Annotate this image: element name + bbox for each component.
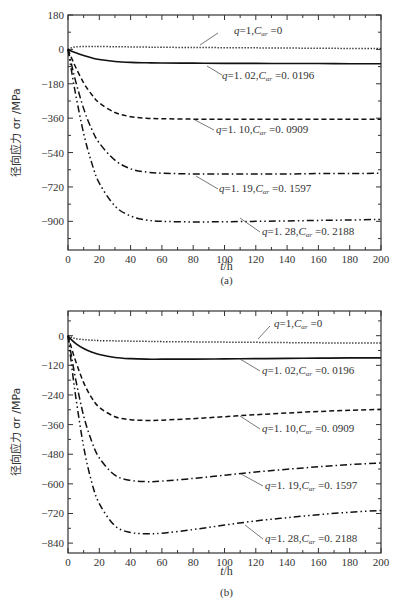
x-tick-label: 80 xyxy=(188,253,200,265)
x-axis: 020406080100120140160180200 xyxy=(65,311,390,568)
panel-caption: (b) xyxy=(220,586,233,599)
annotations: q=1,Cαr =0q=1. 02,Cαr =0. 0196q=1. 10,Cα… xyxy=(195,24,355,239)
x-tick-label: 160 xyxy=(310,556,327,568)
y-tick-label: −360 xyxy=(41,112,64,124)
x-tick-label: 20 xyxy=(94,253,106,265)
x-tick-label: 60 xyxy=(156,253,168,265)
series-annotation: q=1,Cαr =0 xyxy=(234,24,283,38)
leader-line xyxy=(245,525,263,539)
x-tick-label: 20 xyxy=(94,556,106,568)
x-tick-label: 140 xyxy=(279,253,296,265)
y-tick-label: 180 xyxy=(48,9,65,21)
chart-panel-b: 0204060801001201401601802000−120−240−360… xyxy=(9,311,390,599)
series-line-solid xyxy=(68,336,381,359)
y-tick-label: −480 xyxy=(41,448,64,460)
series-annotation: q=1. 19,Cαr =0. 1597 xyxy=(219,182,312,196)
y-tick-label: 0 xyxy=(59,330,65,342)
x-tick-label: 200 xyxy=(373,556,390,568)
chart-canvas: 0204060801001201401601802001800−180−360−… xyxy=(0,0,394,610)
y-axis: 0−120−240−360−480−600−720−840 xyxy=(41,321,381,549)
y-tick-label: −540 xyxy=(41,147,64,159)
x-tick-label: 160 xyxy=(310,253,327,265)
series-annotation: q=1. 19,Cαr =0. 1597 xyxy=(265,479,358,493)
x-tick-label: 200 xyxy=(373,253,390,265)
leader-line xyxy=(241,474,263,486)
x-tick-label: 60 xyxy=(156,556,168,568)
leader-line xyxy=(200,33,218,45)
y-axis-label: 径向应力 σr /MPa xyxy=(9,88,23,177)
x-tick-label: 40 xyxy=(125,556,137,568)
series-line-solid xyxy=(68,49,381,63)
series-annotation: q=1. 10,Cαr =0. 0909 xyxy=(216,123,309,137)
series-annotation: q=1,Cαr =0 xyxy=(274,317,323,331)
leader-line xyxy=(207,66,222,75)
x-tick-label: 40 xyxy=(125,253,137,265)
x-tick-label: 120 xyxy=(248,253,265,265)
x-tick-label: 140 xyxy=(279,556,296,568)
leader-line xyxy=(240,416,260,429)
x-tick-label: 180 xyxy=(341,253,358,265)
leader-line xyxy=(240,218,260,232)
leader-line xyxy=(258,326,270,339)
y-tick-label: −840 xyxy=(41,537,64,549)
x-tick-label: 0 xyxy=(65,253,71,265)
series-line-dotted xyxy=(68,46,381,49)
series-line-dashed xyxy=(68,49,381,119)
chart-panel-a: 0204060801001201401601802001800−180−360−… xyxy=(9,9,390,287)
x-tick-label: 180 xyxy=(341,556,358,568)
y-axis: 1800−180−360−540−720−900 xyxy=(41,9,381,239)
x-axis-label: t/h xyxy=(220,259,233,273)
x-tick-label: 80 xyxy=(188,556,200,568)
y-tick-label: −360 xyxy=(41,419,64,431)
y-tick-label: −180 xyxy=(41,78,64,90)
series-annotation: q=1. 02,Cαr =0. 0196 xyxy=(222,69,315,83)
panel-caption: (a) xyxy=(220,274,233,287)
y-tick-label: −120 xyxy=(41,359,64,371)
y-tick-label: −600 xyxy=(41,478,64,490)
series-line-dotted xyxy=(68,336,381,343)
y-tick-label: −720 xyxy=(41,507,64,519)
annotations: q=1,Cαr =0q=1. 02,Cαr =0. 0196q=1. 10,Cα… xyxy=(240,317,358,546)
y-tick-label: −720 xyxy=(41,181,64,193)
leader-line xyxy=(195,120,214,130)
y-tick-label: −900 xyxy=(41,215,64,227)
series-annotation: q=1. 28,Cαr =0. 2188 xyxy=(262,225,355,239)
leader-line xyxy=(196,176,218,189)
y-tick-label: −240 xyxy=(41,389,64,401)
y-tick-label: 0 xyxy=(59,43,65,55)
series-annotation: q=1. 10,Cαr =0. 0909 xyxy=(262,422,355,436)
x-tick-label: 120 xyxy=(248,556,265,568)
series-line-dashed xyxy=(68,336,381,421)
x-tick-label: 0 xyxy=(65,556,71,568)
y-axis-label: 径向应力 σr /MPa xyxy=(9,388,23,477)
leader-line xyxy=(240,359,260,371)
x-axis-label: t/h xyxy=(220,564,233,578)
series-annotation: q=1. 28,Cαr =0. 2188 xyxy=(265,532,358,546)
series-annotation: q=1. 02,Cαr =0. 0196 xyxy=(262,364,355,378)
